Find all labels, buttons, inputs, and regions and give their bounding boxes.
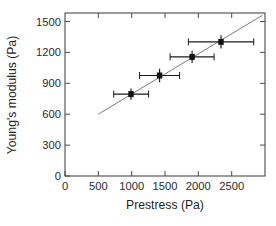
y-tick-label-600: 600 (42, 108, 61, 120)
plot-frame (65, 13, 265, 176)
y-tick-label-900: 900 (42, 77, 61, 89)
x-tick-label-1500: 1500 (153, 180, 178, 192)
x-tick-label-1000: 1000 (119, 180, 144, 192)
y-tick-label-300: 300 (42, 139, 61, 151)
data-point-3 (170, 51, 214, 63)
x-tick-label-0: 0 (62, 180, 68, 192)
x-axis-ticks-top (98, 13, 231, 18)
chart-figure: 1500 1200 900 600 300 0 0 500 1000 1500 … (0, 0, 276, 226)
x-axis-ticks (65, 171, 232, 176)
x-tick-label-2000: 2000 (186, 180, 211, 192)
x-tick-label-500: 500 (89, 180, 108, 192)
data-point-4 (188, 35, 253, 48)
y-axis-ticks-right (260, 22, 265, 146)
data-point-1 (114, 88, 149, 99)
linear-fit-line (98, 15, 262, 114)
y-tick-label-1500: 1500 (36, 16, 61, 28)
prestress-vs-modulus-scatter-plot: 1500 1200 900 600 300 0 0 500 1000 1500 … (0, 0, 276, 226)
y-tick-label-1200: 1200 (36, 46, 61, 58)
x-axis-title: Prestress (Pa) (126, 198, 204, 212)
data-point-2 (140, 69, 180, 82)
y-tick-label-0: 0 (55, 170, 61, 182)
y-axis-title: Young's modulus (Pa) (5, 36, 19, 154)
y-axis-ticks (65, 22, 70, 177)
x-tick-label-2500: 2500 (219, 180, 244, 192)
